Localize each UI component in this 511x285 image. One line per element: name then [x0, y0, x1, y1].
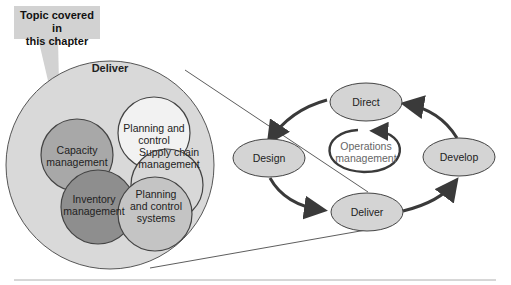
label-line: Operations — [328, 140, 404, 152]
label-line: management — [41, 156, 113, 168]
callout-line1: Topic covered in — [14, 9, 100, 35]
label-line: Supply chain — [133, 146, 205, 158]
node-design-label: Design — [233, 152, 305, 164]
label-planning-control: Planning and control — [118, 122, 190, 146]
label-line: Capacity — [41, 144, 113, 156]
arrow-design-to-deliver — [270, 178, 322, 210]
topic-callout: Topic covered in this chapter — [14, 6, 100, 39]
arrow-deliver-to-develop — [403, 182, 455, 211]
label-line: Planning — [120, 188, 192, 200]
label-planning-systems: Planning and control systems — [120, 188, 192, 224]
label-line: management — [133, 158, 205, 170]
label-line: and control — [120, 200, 192, 212]
node-direct-label: Direct — [330, 96, 402, 108]
label-supply-chain: Supply chain management — [133, 146, 205, 170]
label-capacity: Capacity management — [41, 144, 113, 168]
label-line: Planning and — [118, 122, 190, 134]
arrow-direct-to-design — [270, 100, 327, 140]
center-label: Operations management — [328, 140, 404, 164]
label-line: systems — [120, 212, 192, 224]
label-line: control — [118, 134, 190, 146]
label-line: management — [328, 152, 404, 164]
node-develop-label: Develop — [423, 151, 495, 163]
callout-line2: this chapter — [14, 35, 100, 48]
arrow-develop-to-direct — [406, 104, 457, 138]
node-deliver-label: Deliver — [331, 206, 403, 218]
zoom-circle-title: Deliver — [88, 62, 132, 74]
